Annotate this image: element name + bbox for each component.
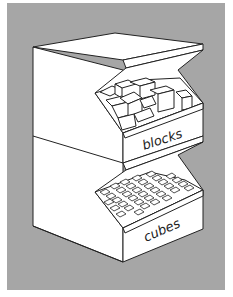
unit-left-side [33, 47, 123, 262]
storage-bins-illustration: blocks cubes [0, 0, 233, 297]
